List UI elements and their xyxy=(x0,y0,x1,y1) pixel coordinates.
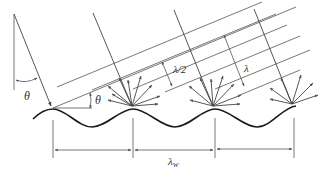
wave-period-label: λW xyxy=(167,155,180,169)
diffraction-diagram: θ θ λ/2 λ xyxy=(0,0,327,172)
period-dimension: λW xyxy=(53,118,294,169)
wavefront-lines xyxy=(53,2,310,108)
scattered-rays-crest-2 xyxy=(189,76,241,106)
wave-period-subscript: W xyxy=(173,161,180,169)
theta-label-left: θ xyxy=(24,89,30,103)
theta-label-right: θ xyxy=(95,93,101,107)
wavelength-label: λ xyxy=(243,62,249,74)
reflection-angle-reference: θ xyxy=(53,93,101,108)
half-wavelength-dimension: λ/2 xyxy=(162,62,187,86)
corrugated-surface-wave xyxy=(33,106,296,127)
incident-rays xyxy=(93,9,292,106)
incident-angle-reference: θ xyxy=(14,14,51,106)
half-wavelength-label: λ/2 xyxy=(172,63,187,75)
